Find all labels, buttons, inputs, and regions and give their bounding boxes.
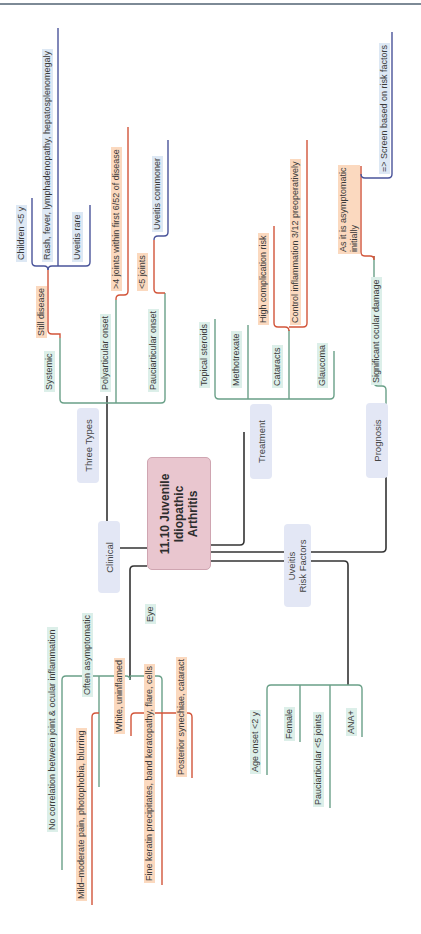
node-children-under-5[interactable]: Children <5 y: [16, 205, 27, 262]
node-ana-positive[interactable]: ANA+: [346, 708, 357, 736]
mind-map-canvas: 11.10 Juvenile Idiopathic Arthritis Thre…: [0, 0, 421, 934]
connector-orange: [361, 166, 374, 260]
node-symptoms[interactable]: Mild–moderate pain, photophobia, blurrin…: [76, 728, 87, 901]
node-methotrexate[interactable]: Methotrexate: [231, 331, 242, 388]
node-systemic[interactable]: Systemic: [44, 351, 55, 392]
topic-treatment-label: Treatment: [256, 420, 267, 463]
connector-orange: [48, 270, 60, 338]
node-pauciarticular-joints-risk[interactable]: Pauciarticular <5 joints: [313, 712, 324, 807]
node-pauciarticular-onset[interactable]: Pauciarticular onset: [148, 309, 159, 392]
node-asymptomatic-initially[interactable]: As it is asymptomatic initially: [338, 165, 360, 254]
topic-prognosis[interactable]: Prognosis: [366, 403, 388, 478]
connector-blue: [48, 205, 90, 270]
topic-uveitis-risk-factors-label: Uveitis Risk Factors: [287, 539, 309, 592]
node-screen-risk-factors[interactable]: => Screen based on risk factors: [379, 43, 390, 174]
node-significant-ocular-damage[interactable]: Significant ocular damage: [371, 277, 382, 385]
connector-green: [267, 685, 348, 775]
node-white-uninflamed[interactable]: White, uninflamed: [114, 658, 125, 734]
node-systemic-features[interactable]: Rash, fever, lymphadenopathy, hepatosple…: [42, 49, 53, 262]
node-often-asymptomatic[interactable]: Often asymptomatic: [82, 613, 93, 697]
node-cataracts[interactable]: Cataracts: [272, 345, 283, 388]
node-still-disease[interactable]: Still disease: [36, 286, 47, 338]
central-topic[interactable]: 11.10 Juvenile Idiopathic Arthritis: [147, 457, 211, 570]
node-control-inflammation[interactable]: Control inflammation 3/12 preoperatively: [290, 159, 301, 325]
node-polyarticular-onset[interactable]: Polyarticular onset: [100, 314, 111, 392]
node-glaucoma[interactable]: Glaucoma: [317, 343, 328, 388]
topic-treatment[interactable]: Treatment: [250, 404, 272, 479]
page-top-rule: [0, 3, 421, 5]
node-high-complication-risk[interactable]: High complication risk: [258, 233, 269, 325]
connector-orange: [92, 713, 99, 905]
topic-prognosis-label: Prognosis: [372, 419, 383, 461]
node-age-onset[interactable]: Age onset <2 y: [250, 710, 261, 774]
node-topical-steroids[interactable]: Topical steroids: [199, 322, 210, 388]
topic-three-types[interactable]: Three Types: [77, 408, 99, 483]
central-topic-title: 11.10 Juvenile Idiopathic Arthritis: [158, 473, 200, 554]
connector-trunk: [211, 432, 244, 545]
node-no-correlation[interactable]: No correlation between joint & ocular in…: [47, 627, 58, 832]
topic-three-types-label: Three Types: [83, 419, 94, 472]
topic-uveitis-risk-factors[interactable]: Uveitis Risk Factors: [284, 524, 311, 607]
topic-clinical[interactable]: Clinical: [98, 521, 120, 593]
connector-trunk: [211, 561, 348, 685]
connector-orange: [154, 240, 165, 293]
connector-orange: [274, 226, 289, 331]
node-posterior-synechiae[interactable]: Posterior synechiae, cataract: [176, 657, 187, 777]
topic-clinical-label: Clinical: [104, 542, 115, 573]
node-keratic-precipitates[interactable]: Fine keratin precipitates, band keratopa…: [144, 664, 155, 883]
node-female[interactable]: Female: [284, 707, 295, 741]
node-pauciarticular-joints[interactable]: <5 joints: [137, 253, 148, 291]
node-eye[interactable]: Eye: [145, 604, 156, 624]
node-polyarticular-detail[interactable]: >4 joints within first 6/52 of disease: [111, 147, 122, 291]
node-uveitis-rare[interactable]: Uveitis rare: [72, 212, 83, 262]
node-uveitis-commoner[interactable]: Uveitis commoner: [152, 156, 163, 232]
